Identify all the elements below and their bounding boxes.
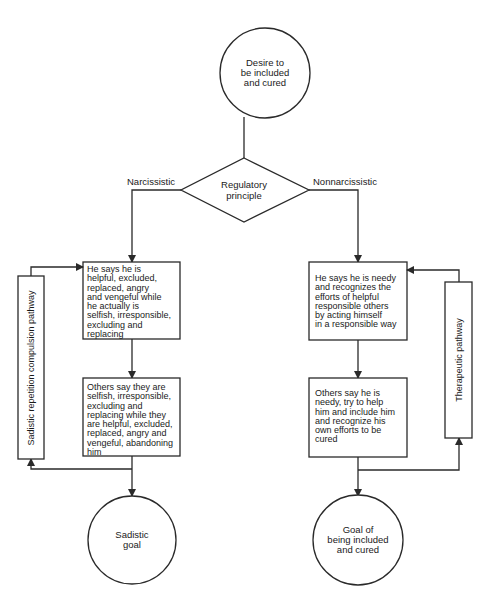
branch-label-narcissistic: Narcissistic <box>127 177 175 187</box>
nonnarcissistic-box-he-says: He says he is needy and recognizes the e… <box>309 262 407 340</box>
sadistic-goal-line-2: goal <box>115 540 148 550</box>
therapeutic-goal-line-3: and cured <box>327 545 388 555</box>
sadistic-repetition-pathway-label: Sadistic repetition compulsion pathway <box>26 290 36 445</box>
therapeutic-pathway: Therapeutic pathway <box>445 282 472 438</box>
start-node-line-3: and cured <box>241 78 290 88</box>
decision-regulatory-principle: Regulatory principle <box>205 179 283 201</box>
therapeutic-goal-node: Goal of being included and cured <box>313 495 403 585</box>
sadistic-repetition-pathway: Sadistic repetition compulsion pathway <box>18 276 44 459</box>
nonnarcissistic-box-he-says-text: He says he is needy and recognizes the e… <box>315 274 401 330</box>
narcissistic-box-others-say-text: Others say they are selfish, irresponsib… <box>87 383 176 457</box>
narcissistic-box-he-says: He says he is helpful, excluded, replace… <box>83 262 180 339</box>
start-node-desire: Desire to be included and cured <box>220 28 310 118</box>
sadistic-goal-node: Sadistic goal <box>88 496 176 584</box>
branch-label-nonnarcissistic: Nonnarcissistic <box>313 177 377 187</box>
narcissistic-box-others-say: Others say they are selfish, irresponsib… <box>83 378 180 456</box>
nonnarcissistic-box-others-say: Others say he is needy, try to help him … <box>309 378 407 457</box>
nonnarcissistic-box-others-say-text: Others say he is needy, try to help him … <box>315 389 401 445</box>
therapeutic-pathway-label: Therapeutic pathway <box>454 318 464 402</box>
decision-line-2: principle <box>205 190 283 201</box>
narcissistic-box-he-says-text: He says he is helpful, excluded, replace… <box>87 265 176 339</box>
decision-line-1: Regulatory <box>205 179 283 190</box>
